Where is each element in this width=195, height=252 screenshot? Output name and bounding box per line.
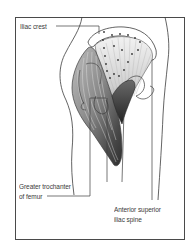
body-contour-right xyxy=(158,17,169,200)
hip-anatomy-figure: Iliac crest Greater trochanter of femur … xyxy=(0,0,195,252)
label-iliac-crest: Iliac crest xyxy=(20,22,47,32)
label-greater-trochanter: Greater trochanter of femur xyxy=(19,182,71,201)
label-anterior-superior-iliac-spine: Anterior superior iliac spine xyxy=(114,205,161,224)
